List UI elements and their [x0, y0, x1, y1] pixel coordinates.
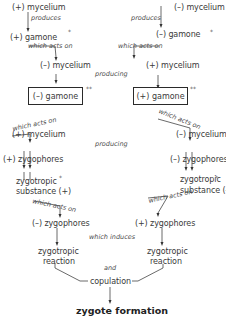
left-gamone-box: (–) gamone — [28, 87, 83, 105]
left-mycelium-minus: (–) mycelium — [40, 61, 91, 70]
right-gamone-box: (+) gamone — [133, 87, 188, 105]
center-which-induces: which induces — [89, 234, 135, 241]
left-box-footnote-mark: ** — [86, 86, 92, 92]
right-produces-label: produces — [131, 15, 161, 22]
left-box-gamone-minus: (–) gamone — [29, 92, 82, 101]
left-which-acts-on-1: which acts on — [28, 43, 73, 50]
left-substance-line1: zygotropic — [16, 177, 57, 186]
left-substance-line2: substance (+) — [16, 187, 71, 196]
right-zygophores-plus: (+) zygophores — [135, 219, 195, 228]
right-gamone-minus: (–) gamone — [156, 30, 200, 39]
left-reaction-line1: zygotropic — [38, 247, 79, 256]
left-gamone-plus: (+) gamone — [10, 33, 57, 42]
center-zygote-formation: zygote formation — [76, 305, 168, 316]
right-gamone-footnote-mark: * — [210, 29, 213, 35]
right-which-acts-on-1: which acts on — [118, 43, 163, 50]
right-substance-footnote-mark: * — [215, 175, 218, 181]
center-copulation: copulation — [90, 277, 131, 286]
left-reaction-line2: reaction — [43, 257, 75, 266]
left-zygophores-plus: (+) zygophores — [3, 155, 63, 164]
right-zygophores-minus: (–) zygophores — [170, 155, 226, 164]
right-mycelium-plus: (+) mycelium — [146, 61, 199, 70]
right-box-gamone-plus: (+) gamone — [134, 92, 187, 101]
right-box-footnote-mark: ** — [190, 86, 196, 92]
left-produces-label: produces — [31, 15, 61, 22]
left-mycelium-plus-2: (+) mycelium — [12, 130, 65, 139]
left-gamone-footnote-mark: * — [68, 29, 71, 35]
right-reaction-line2: reaction — [150, 257, 182, 266]
left-substance-footnote-mark: * — [59, 175, 62, 181]
right-mycelium-minus: (–) mycelium — [174, 3, 225, 12]
left-zygophores-minus: (–) zygophores — [32, 219, 90, 228]
center-producing-2: producing — [95, 141, 128, 148]
center-and: and — [104, 265, 116, 272]
right-reaction-line1: zygotropic — [147, 247, 188, 256]
right-mycelium-minus-2: (–) mycelium — [176, 130, 226, 139]
left-mycelium-plus: (+) mycelium — [12, 3, 65, 12]
center-producing-1: producing — [95, 71, 128, 78]
